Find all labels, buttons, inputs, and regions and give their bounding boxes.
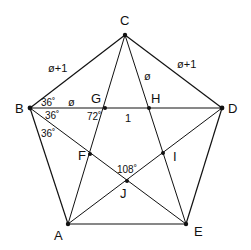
dot-F <box>88 152 92 156</box>
diagonal-BE <box>30 108 186 224</box>
diagonal-CA <box>68 35 125 224</box>
label-F: F <box>78 148 86 163</box>
label-H: H <box>151 91 160 106</box>
angle-B-top: 36˚ <box>41 97 55 108</box>
angle-B-low: 36˚ <box>41 128 55 139</box>
angle-J: 108˚ <box>117 164 137 175</box>
dot-B <box>28 106 33 111</box>
dot-I <box>161 151 165 155</box>
label-G: G <box>91 91 101 106</box>
dot-C <box>123 33 127 37</box>
label-C: C <box>120 13 129 28</box>
length-BG: ø <box>68 96 75 108</box>
edge-DE <box>186 108 222 224</box>
diagonal-DA <box>68 108 222 224</box>
dot-J <box>125 179 129 183</box>
label-B: B <box>15 101 24 116</box>
dot-E <box>184 222 188 226</box>
label-A: A <box>54 228 63 243</box>
angle-G: 72˚ <box>87 111 101 122</box>
dot-H <box>147 106 151 110</box>
pentagon-diagram: A B C D E F G H I J ø+1 ø+1 ø ø 1 36˚ 36… <box>0 0 251 250</box>
dot-A <box>66 222 70 226</box>
length-BC: ø+1 <box>48 62 67 74</box>
label-E: E <box>194 224 203 239</box>
length-CH: ø <box>144 70 151 82</box>
length-CD: ø+1 <box>177 58 196 70</box>
label-D: D <box>228 101 237 116</box>
dot-D <box>220 106 225 111</box>
label-I: I <box>173 149 177 164</box>
edge-CD <box>125 35 222 108</box>
label-J: J <box>120 186 127 201</box>
dot-G <box>103 106 107 110</box>
angle-B-mid: 36˚ <box>45 110 59 121</box>
length-GH: 1 <box>125 112 131 124</box>
edge-AB <box>30 108 68 224</box>
